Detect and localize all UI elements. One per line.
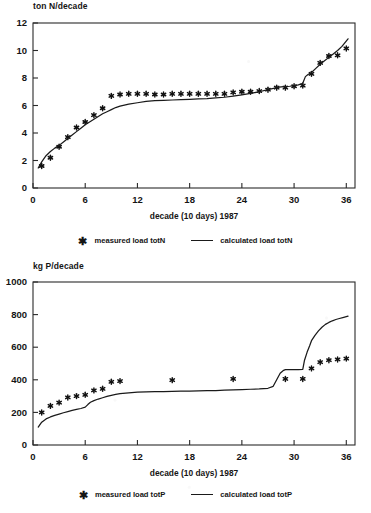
x-tick-label: 36	[341, 451, 352, 462]
x-tick-label: 6	[83, 194, 88, 205]
asterisk-marker-icon: ✱	[78, 238, 87, 245]
x-tick-label: 0	[30, 451, 35, 462]
y-tick-label: 800	[11, 309, 27, 320]
chart-svg-totn: 024681012061218243036decade (10 days) 19…	[0, 0, 371, 232]
x-tick-label: 6	[83, 451, 88, 462]
legend-label-calculated-totp: calculated load totP	[220, 490, 292, 499]
y-tick-label: 200	[11, 407, 27, 418]
x-tick-label: 30	[289, 451, 300, 462]
y-tick-label: 2	[22, 155, 27, 166]
figure-totn: ton N/decade 024681012061218243036decade…	[0, 0, 371, 258]
legend-label-measured-totn: measured load totN	[94, 236, 165, 245]
x-tick-label: 30	[289, 194, 300, 205]
y-tick-label: 400	[11, 374, 27, 385]
legend-entry-measured-totp: ✱ measured load totP	[79, 490, 165, 499]
legend-label-measured-totp: measured load totP	[95, 490, 165, 499]
y-tick-label: 12	[16, 17, 27, 28]
legend-entry-calculated-totn: calculated load totN	[191, 236, 292, 245]
x-tick-label: 12	[132, 194, 143, 205]
x-tick-label: 18	[184, 194, 195, 205]
legend-totp: ✱ measured load totP calculated load tot…	[0, 490, 371, 499]
series-line-totP	[38, 316, 348, 427]
figure-totp: kg P/decade 0200400600800100006121824303…	[0, 258, 371, 513]
y-tick-label: 10	[16, 45, 27, 56]
y-tick-label: 6	[22, 100, 27, 111]
chart-svg-totp: 02004006008001000061218243036decade (10 …	[0, 258, 371, 488]
y-tick-label: 0	[22, 439, 27, 450]
x-axis-title: decade (10 days) 1987	[150, 468, 239, 478]
y-tick-label: 4	[22, 127, 28, 138]
x-tick-label: 24	[237, 451, 248, 462]
series-line-totN	[38, 39, 348, 168]
x-tick-label: 18	[184, 451, 195, 462]
x-tick-label: 24	[237, 194, 248, 205]
y-tick-label: 0	[22, 182, 27, 193]
x-tick-label: 0	[30, 194, 35, 205]
y-tick-label: 8	[22, 72, 27, 83]
plot-area-totn: 024681012061218243036decade (10 days) 19…	[0, 0, 371, 232]
legend-totn: ✱ measured load totN calculated load tot…	[0, 236, 371, 245]
legend-entry-calculated-totp: calculated load totP	[191, 490, 292, 499]
y-tick-label: 1000	[6, 276, 27, 287]
series-markers-totN	[40, 46, 349, 169]
x-axis-title: decade (10 days) 1987	[150, 211, 239, 221]
legend-entry-measured-totn: ✱ measured load totN	[78, 236, 165, 245]
x-tick-label: 36	[341, 194, 352, 205]
x-tick-label: 12	[132, 451, 143, 462]
y-tick-label: 600	[11, 341, 27, 352]
plot-area-totp: 02004006008001000061218243036decade (10 …	[0, 258, 371, 488]
legend-label-calculated-totn: calculated load totN	[220, 236, 292, 245]
line-sample-icon	[191, 494, 213, 495]
asterisk-marker-icon: ✱	[79, 492, 88, 499]
line-sample-icon	[191, 240, 213, 241]
